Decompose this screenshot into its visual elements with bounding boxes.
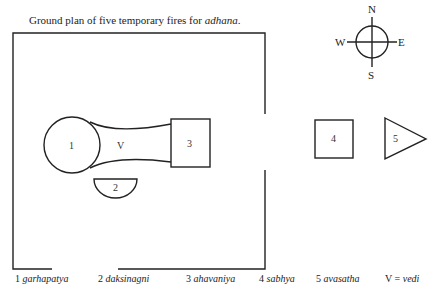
legend-item: 5 avasatha bbox=[316, 273, 360, 284]
legend-item: 2 daksinagni bbox=[98, 273, 149, 284]
fire-5-label: 5 bbox=[393, 133, 398, 144]
ground-plan: 1 V 3 2 4 5 N S E W bbox=[0, 0, 437, 294]
compass-south: S bbox=[368, 69, 374, 81]
vedi-label: V bbox=[117, 140, 125, 151]
fire-4-label: 4 bbox=[331, 133, 336, 144]
fire-3-label: 3 bbox=[187, 138, 192, 149]
compass-east: E bbox=[398, 36, 405, 48]
legend-item: 1 garhapatya bbox=[15, 273, 68, 284]
fire-1-label: 1 bbox=[69, 140, 74, 151]
enclosure-wall-lower bbox=[118, 170, 265, 269]
compass-north: N bbox=[368, 3, 376, 15]
legend-item: 3 ahavaniya bbox=[186, 273, 235, 284]
legend-item: V = vedi bbox=[385, 273, 419, 284]
vedi-shape bbox=[90, 122, 171, 168]
legend-item: 4 sabhya bbox=[259, 273, 295, 284]
fire-2-label: 2 bbox=[113, 182, 118, 193]
compass-west: W bbox=[335, 36, 346, 48]
compass-rose bbox=[347, 17, 397, 67]
fire-5-triangle bbox=[385, 118, 426, 159]
